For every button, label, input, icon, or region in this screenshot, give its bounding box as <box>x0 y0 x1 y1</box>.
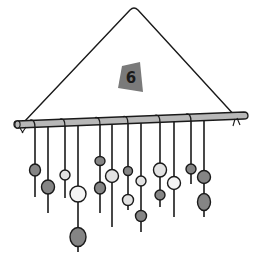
strand <box>198 117 211 217</box>
bead-dark <box>198 171 211 184</box>
number-badge: 6 <box>118 62 143 92</box>
bead-white <box>70 186 86 202</box>
bead-dark <box>136 211 147 222</box>
badge-label: 6 <box>126 69 136 87</box>
rod-end-left <box>15 121 20 128</box>
strand <box>123 120 134 210</box>
bead-dark <box>155 190 165 200</box>
mobile-illustration: 6 <box>0 0 259 270</box>
bead-light <box>154 163 167 177</box>
bead-dark <box>95 157 105 166</box>
rod <box>14 112 248 133</box>
bead-light <box>106 170 119 183</box>
bead-dark <box>42 180 55 194</box>
rod-body <box>14 112 248 128</box>
strand <box>106 121 119 227</box>
bead-dark <box>186 164 196 174</box>
bead-light <box>60 170 70 180</box>
bead-dark <box>30 164 41 176</box>
strand <box>136 120 147 232</box>
bead-dark <box>124 167 133 176</box>
bead-light <box>123 195 134 206</box>
strand <box>154 119 167 207</box>
strands <box>30 117 211 252</box>
strand <box>42 123 55 213</box>
strand <box>70 122 86 252</box>
strand <box>30 124 41 197</box>
bead-dark <box>95 182 106 194</box>
bead-dark <box>198 194 211 211</box>
strand <box>60 123 70 198</box>
strand <box>168 118 181 217</box>
bead-light <box>136 176 146 186</box>
strand <box>186 118 196 184</box>
strand <box>95 121 106 213</box>
bead-white <box>168 177 181 190</box>
bead-dark <box>70 228 86 247</box>
